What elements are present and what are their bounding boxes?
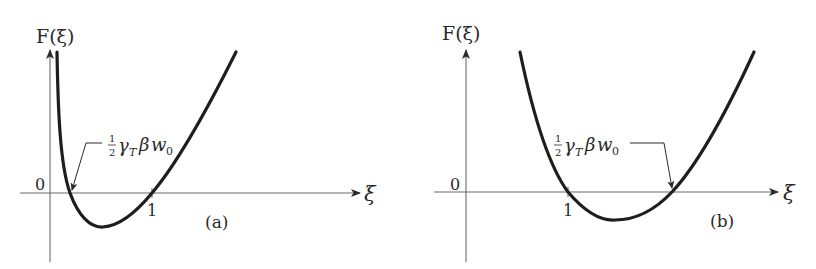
svg-text:T: T [575,146,584,159]
svg-text:1: 1 [109,133,115,144]
tick-label-1: 1 [563,201,573,220]
y-axis-label: F(ξ) [442,22,480,44]
annotation-label: 1 2 γ T β w 0 [108,133,173,159]
svg-text:0: 0 [612,145,619,158]
svg-text:w: w [597,134,613,155]
annotation-leader [630,143,672,188]
svg-text:T: T [129,146,138,159]
svg-text:2: 2 [555,147,561,158]
x-axis-label: ξ [783,181,796,205]
panel-label: (a) [205,212,228,232]
tick-label-1: 1 [147,201,157,220]
panel-a: F(ξ) ξ 0 1 (a) 1 2 γ T β w 0 [20,25,377,262]
panel-label: (b) [710,211,734,231]
svg-text:1: 1 [555,133,561,144]
svg-text:2: 2 [109,147,115,158]
svg-text:γ: γ [118,135,129,156]
annotation-leader [72,143,102,190]
annotation-label: 1 2 γ T β w 0 [554,133,619,159]
origin-label: 0 [450,175,460,194]
svg-text:β: β [584,134,595,155]
svg-text:0: 0 [166,145,173,158]
y-axis-label: F(ξ) [36,25,74,47]
panel-b: F(ξ) ξ 0 1 (b) 1 2 γ T β w 0 [434,22,796,262]
x-axis-label: ξ [364,182,377,206]
svg-text:β: β [138,134,149,155]
svg-text:w: w [151,134,167,155]
diagram-canvas: F(ξ) ξ 0 1 (a) 1 2 γ T β w 0 F(ξ) ξ 0 1 … [0,0,816,269]
origin-label: 0 [35,175,45,194]
svg-text:γ: γ [564,135,575,156]
